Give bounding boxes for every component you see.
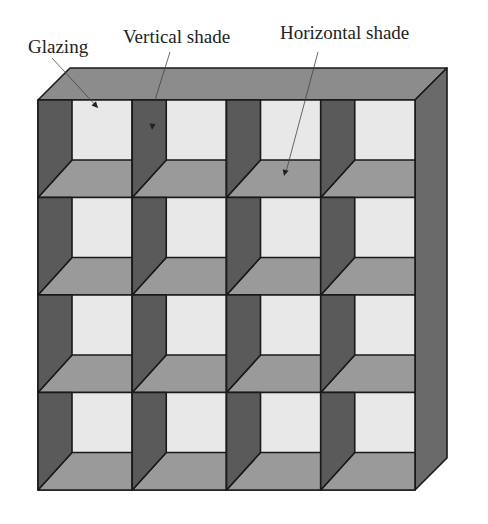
shading-facade-diagram bbox=[0, 0, 488, 524]
top-face bbox=[38, 68, 447, 100]
right-side-face bbox=[415, 68, 447, 490]
